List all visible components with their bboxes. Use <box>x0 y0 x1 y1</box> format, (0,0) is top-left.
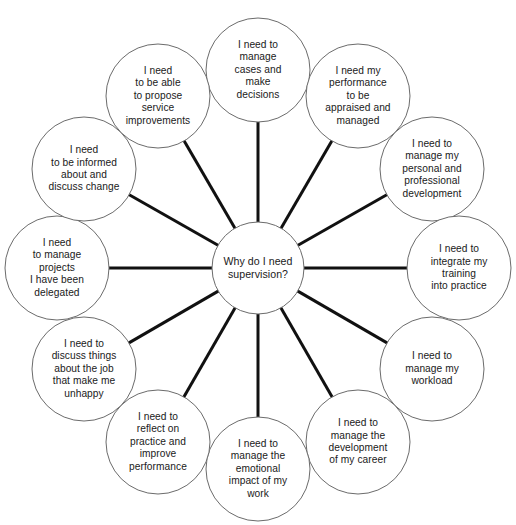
spoke-line-reflect-on-practice-and-improve-performance <box>183 307 235 398</box>
mind-map-diagram: I need to manage cases and make decision… <box>0 0 516 525</box>
node-circle-propose-service-improvements[interactable] <box>106 44 210 148</box>
node-circle-manage-cases-and-make-decisions[interactable] <box>206 18 310 122</box>
node-circle-manage-personal-and-professional-development[interactable] <box>380 117 484 221</box>
spoke-line-performance-appraised-and-managed <box>281 140 333 229</box>
node-circle-manage-development-of-my-career[interactable] <box>306 390 410 494</box>
node-circle-integrate-training-into-practice[interactable] <box>407 216 511 320</box>
center-circle-group <box>212 222 304 314</box>
spoke-line-manage-personal-and-professional-development <box>297 194 388 246</box>
spoke-line-manage-development-of-my-career <box>280 307 332 398</box>
node-circle-manage-emotional-impact-of-my-work[interactable] <box>206 417 310 521</box>
diagram-canvas <box>0 0 516 525</box>
spoke-line-discuss-things-that-make-me-unhappy <box>128 291 219 344</box>
spoke-line-be-informed-about-and-discuss-change <box>128 194 219 246</box>
node-circle-discuss-things-that-make-me-unhappy[interactable] <box>32 317 136 421</box>
spoke-line-propose-service-improvements <box>184 140 236 229</box>
center-circle[interactable] <box>212 222 304 314</box>
spoke-line-manage-my-workload <box>297 291 388 344</box>
node-circle-manage-delegated-projects[interactable] <box>5 216 109 320</box>
